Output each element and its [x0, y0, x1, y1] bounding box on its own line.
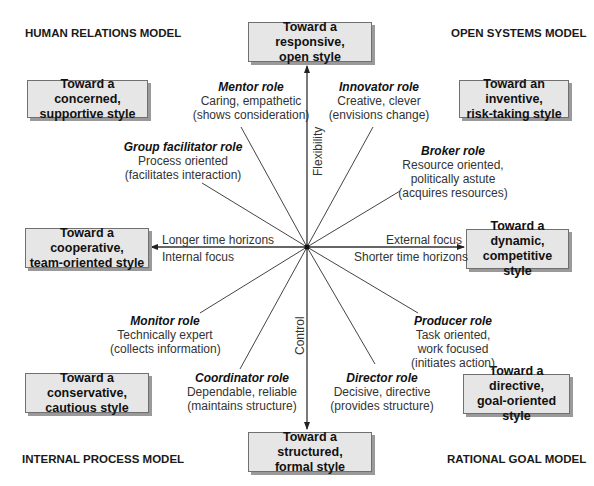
role-title: Producer role [410, 314, 496, 328]
human-relations-model-label: HUMAN RELATIONS MODEL [25, 27, 181, 39]
box-text: Toward a concerned, [28, 77, 147, 107]
box-directive-goal-oriented-style: Toward a directive, goal-oriented style [463, 374, 570, 414]
box-inventive-risk-taking-style: Toward an inventive, risk-taking style [459, 80, 569, 118]
rational-goal-model-label: RATIONAL GOAL MODEL [447, 453, 586, 465]
internal-focus-label: Internal focus [162, 250, 234, 264]
box-text: formal style [275, 460, 345, 475]
group-facilitator-role: Group facilitator role Process oriented … [108, 140, 258, 182]
coordinator-role: Coordinator role Dependable, reliable (m… [186, 371, 298, 413]
box-text: risk-taking style [466, 107, 561, 122]
producer-role: Producer role Task oriented, work focuse… [410, 314, 496, 370]
box-structured-formal-style: Toward a structured, formal style [248, 432, 372, 472]
role-description: work focused [410, 342, 496, 356]
shorter-time-horizons-label: Shorter time horizons [354, 250, 468, 264]
role-description: Resource oriented, [398, 158, 508, 172]
box-text: Toward a dynamic, [467, 219, 568, 249]
role-title: Monitor role [110, 314, 220, 328]
box-text: Toward a responsive, [249, 20, 371, 50]
role-description: Dependable, reliable [186, 385, 298, 399]
control-label: Control [293, 316, 307, 355]
innovator-role: Innovator role Creative, clever (envisio… [318, 80, 440, 122]
box-text: open style [279, 50, 341, 65]
box-concerned-supportive-style: Toward a concerned, supportive style [27, 80, 148, 118]
role-description: (initiates action) [410, 356, 496, 370]
external-focus-label: External focus [386, 233, 462, 247]
box-text: Toward a structured, [249, 430, 371, 460]
role-description: politically astute [398, 172, 508, 186]
box-cooperative-team-oriented-style: Toward a cooperative, team-oriented styl… [25, 228, 149, 268]
box-text: competitive style [467, 249, 568, 279]
role-description: (envisions change) [318, 108, 440, 122]
role-description: Task oriented, [410, 328, 496, 342]
role-description: (acquires resources) [398, 186, 508, 200]
role-title: Coordinator role [186, 371, 298, 385]
box-text: Toward a conservative, [26, 371, 148, 401]
broker-role: Broker role Resource oriented, political… [398, 144, 508, 200]
longer-time-horizons-label: Longer time horizons [162, 233, 274, 247]
role-description: (collects information) [110, 342, 220, 356]
role-title: Innovator role [318, 80, 440, 94]
role-description: Caring, empathetic [186, 94, 316, 108]
box-text: cautious style [45, 401, 128, 416]
role-description: Process oriented [108, 154, 258, 168]
internal-process-model-label: INTERNAL PROCESS MODEL [22, 453, 184, 465]
flexibility-label: Flexibility [311, 127, 325, 176]
role-description: Creative, clever [318, 94, 440, 108]
role-title: Mentor role [186, 80, 316, 94]
role-description: (maintains structure) [186, 399, 298, 413]
box-text: Toward a cooperative, [26, 226, 148, 256]
box-text: team-oriented style [30, 256, 145, 271]
mentor-role: Mentor role Caring, empathetic (shows co… [186, 80, 316, 122]
box-text: goal-oriented style [464, 394, 569, 424]
open-systems-model-label: OPEN SYSTEMS MODEL [451, 27, 586, 39]
center-point [305, 245, 310, 250]
role-description: (shows consideration) [186, 108, 316, 122]
role-title: Group facilitator role [108, 140, 258, 154]
role-description: Decisive, directive [330, 385, 434, 399]
role-title: Director role [330, 371, 434, 385]
role-description: (facilitates interaction) [108, 168, 258, 182]
director-role: Director role Decisive, directive (provi… [330, 371, 434, 413]
box-dynamic-competitive-style: Toward a dynamic, competitive style [466, 229, 569, 269]
box-text: Toward an inventive, [460, 77, 568, 107]
box-text: supportive style [40, 107, 136, 122]
role-description: (provides structure) [330, 399, 434, 413]
monitor-role: Monitor role Technically expert (collect… [110, 314, 220, 356]
role-description: Technically expert [110, 328, 220, 342]
box-responsive-open-style: Toward a responsive, open style [248, 22, 372, 62]
role-title: Broker role [398, 144, 508, 158]
box-conservative-cautious-style: Toward a conservative, cautious style [25, 373, 149, 413]
director-spoke [307, 247, 375, 364]
